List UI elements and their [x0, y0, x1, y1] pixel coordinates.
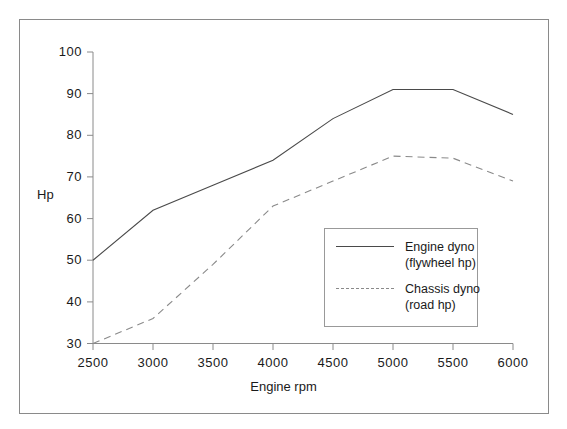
y-tick-label-70: 70	[48, 169, 82, 184]
x-tick-label-3500: 3500	[186, 355, 240, 370]
x-tick-label-2500: 2500	[66, 355, 120, 370]
x-tick-label-5500: 5500	[426, 355, 480, 370]
y-tick-label-90: 90	[48, 86, 82, 101]
legend-label-line2: (road hp)	[405, 297, 480, 313]
x-tick-marks	[93, 344, 513, 351]
x-tick-label-3000: 3000	[126, 355, 180, 370]
y-tick-label-100: 100	[48, 44, 82, 59]
y-tick-marks	[87, 52, 93, 344]
legend-label-engine-dyno: Engine dyno (flywheel hp)	[405, 239, 476, 271]
x-tick-label-4000: 4000	[246, 355, 300, 370]
chart-figure: 100 90 80 70 60 50 40 30 2500 3000 3500 …	[0, 0, 567, 429]
x-axis-title: Engine rpm	[0, 379, 567, 394]
y-tick-label-40: 40	[48, 294, 82, 309]
y-tick-label-30: 30	[48, 336, 82, 351]
x-tick-label-6000: 6000	[486, 355, 540, 370]
x-tick-label-5000: 5000	[366, 355, 420, 370]
legend-entry-chassis-dyno: Chassis dyno (road hp)	[325, 281, 477, 321]
legend-label-line1: Engine dyno	[405, 240, 475, 254]
legend-swatch-solid-line	[336, 246, 394, 249]
y-axis-title: Hp	[37, 187, 54, 202]
legend-swatch-dashed-line	[336, 288, 394, 291]
legend-label-chassis-dyno: Chassis dyno (road hp)	[405, 281, 480, 313]
y-tick-label-80: 80	[48, 127, 82, 142]
legend-label-line1: Chassis dyno	[405, 282, 480, 296]
x-tick-label-4500: 4500	[306, 355, 360, 370]
chart-legend: Engine dyno (flywheel hp) Chassis dyno (…	[324, 228, 478, 327]
y-tick-label-50: 50	[48, 252, 82, 267]
y-tick-label-60: 60	[48, 211, 82, 226]
legend-label-line2: (flywheel hp)	[405, 255, 476, 271]
legend-entry-engine-dyno: Engine dyno (flywheel hp)	[325, 239, 477, 279]
